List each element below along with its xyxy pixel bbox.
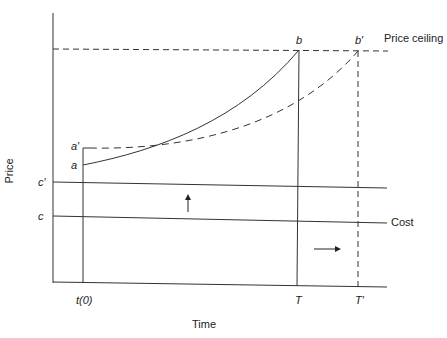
price-path-a-prime-b-prime bbox=[90, 51, 358, 148]
label-a-prime: a′ bbox=[71, 141, 79, 152]
cost-label: Cost bbox=[391, 217, 414, 228]
label-b: b bbox=[296, 35, 302, 46]
label-t0: t(0) bbox=[76, 295, 93, 306]
label-b-prime: b′ bbox=[355, 35, 363, 46]
right-arrow-head bbox=[335, 246, 341, 252]
price-ceiling-label: Price ceiling bbox=[384, 33, 443, 44]
price-ceiling-line bbox=[53, 49, 388, 51]
label-c: c bbox=[38, 211, 44, 222]
x-axis-label: Time bbox=[192, 319, 216, 330]
T-line bbox=[297, 50, 299, 286]
x-axis bbox=[53, 282, 387, 287]
label-a: a bbox=[71, 160, 77, 171]
label-T-prime: T′ bbox=[355, 295, 364, 306]
cost-line bbox=[53, 216, 387, 223]
label-T: T bbox=[295, 295, 302, 306]
up-arrow-head bbox=[185, 194, 191, 200]
y-axis-label: Price bbox=[3, 158, 15, 183]
price-time-diagram bbox=[0, 0, 447, 338]
label-c-prime: c′ bbox=[38, 177, 46, 188]
c-prime-line bbox=[53, 182, 387, 188]
